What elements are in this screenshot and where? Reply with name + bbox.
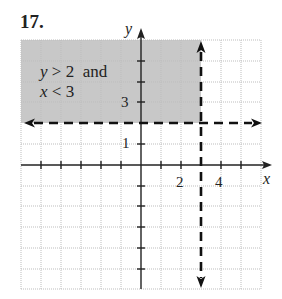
x-tick-label-4: 4: [215, 175, 223, 190]
right-arrow-icon: [251, 119, 262, 128]
inequality-line-1: y > 2 and: [40, 63, 107, 80]
inequality-var-x: x: [40, 82, 48, 101]
x-axis-label: x: [263, 171, 270, 187]
y-tick-label-1: 1: [122, 136, 130, 151]
inequality-text-1: > 2 and: [48, 62, 108, 81]
inequality-text-2: < 3: [48, 82, 75, 101]
graph-figure: [0, 0, 282, 299]
inequality-var-y: y: [40, 62, 48, 81]
inequality-line-2: x < 3: [40, 83, 74, 100]
x-tick-label-2: 2: [176, 175, 184, 190]
x-axis: [21, 161, 266, 169]
problem-number: 17.: [20, 12, 44, 31]
y-axis-label: y: [125, 21, 132, 37]
y-tick-label-3: 3: [121, 95, 129, 110]
